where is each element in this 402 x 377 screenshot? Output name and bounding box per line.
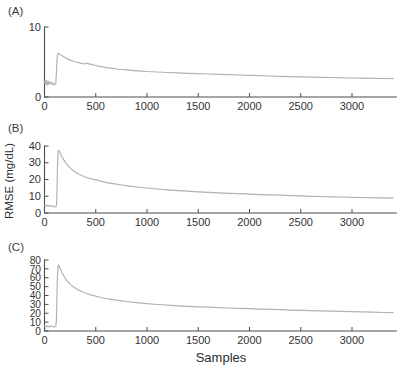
y-tick-label: 10 <box>29 190 41 202</box>
x-tick-label: 0 <box>41 216 47 228</box>
panel-b-label: (B) <box>8 122 24 134</box>
x-tick-label: 0 <box>41 334 47 346</box>
x-tick-label: 500 <box>87 216 105 228</box>
y-axis-title: RMSE (mg/dL) <box>3 143 15 219</box>
y-tick-label: 0 <box>35 207 41 219</box>
y-tick-label: 20 <box>29 173 41 185</box>
y-tick-label: 80 <box>30 255 42 266</box>
x-tick-label: 0 <box>41 100 47 112</box>
axis-spine-A <box>45 27 398 98</box>
panel-c-label: (C) <box>8 241 24 253</box>
y-tick-label: 0 <box>35 91 41 103</box>
x-tick-label: 1500 <box>186 216 210 228</box>
x-tick-label: 2500 <box>289 334 313 346</box>
x-tick-label: 1500 <box>186 334 210 346</box>
x-tick-label: 1500 <box>186 100 210 112</box>
x-tick-label: 2000 <box>237 334 261 346</box>
x-axis-title: Samples <box>196 350 247 365</box>
figure-three-panel-rmse: (A) (B) (C) RMSE (mg/dL) Samples 0100500… <box>0 0 402 377</box>
rmse-series-A <box>45 53 394 85</box>
y-tick-label: 10 <box>29 21 41 33</box>
panel-a-label: (A) <box>8 5 24 17</box>
axis-spine-B <box>45 146 398 214</box>
charts-canvas: (A) (B) (C) RMSE (mg/dL) Samples 0100500… <box>0 0 402 377</box>
y-tick-label: 30 <box>29 156 41 168</box>
x-tick-label: 500 <box>87 100 105 112</box>
x-tick-label: 1000 <box>135 334 159 346</box>
x-tick-label: 3000 <box>340 100 364 112</box>
x-tick-label: 2500 <box>289 100 313 112</box>
rmse-series-B <box>45 151 394 208</box>
rmse-series-C <box>45 265 394 327</box>
x-tick-label: 2500 <box>289 216 313 228</box>
plot-areas: 0100500100015002000250030000102030400500… <box>29 21 397 346</box>
x-tick-label: 3000 <box>340 334 364 346</box>
x-tick-label: 2000 <box>237 216 261 228</box>
x-tick-label: 2000 <box>237 100 261 112</box>
x-tick-label: 500 <box>87 334 105 346</box>
y-tick-label: 40 <box>29 140 41 152</box>
x-tick-label: 3000 <box>340 216 364 228</box>
x-tick-label: 1000 <box>135 216 159 228</box>
x-tick-label: 1000 <box>135 100 159 112</box>
axis-spine-C <box>45 260 398 332</box>
